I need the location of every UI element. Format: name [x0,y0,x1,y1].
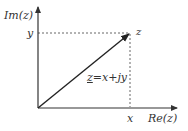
real-axis-label: Re(z) [148,113,177,124]
equation-label: z=x+jy [87,72,127,83]
x-coordinate-label: x [127,113,133,124]
point-z-label: z [136,27,141,37]
imaginary-axis-label: Im(z) [4,10,33,21]
complex-plane-diagram: Im(z) y z z=x+jy x Re(z) [0,0,188,131]
y-coordinate-label: y [27,28,33,39]
equation-rhs: =x+jy [93,71,127,84]
